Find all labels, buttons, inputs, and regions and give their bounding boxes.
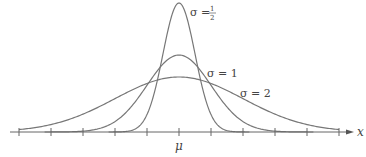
curve-sigma-2 [19,77,339,130]
curves [19,3,339,132]
curve-sigma-1 [45,55,314,132]
x-axis-arrow-icon [346,130,354,135]
fraction-numerator: 1 [210,5,214,13]
fraction-denominator: 2 [210,14,214,22]
chart: x μ σ = 1 2 σ = 1 σ = 2 [0,0,366,157]
series-label-sigma-2: σ = 2 [240,87,271,100]
series-label-sigma-1: σ = 1 [207,67,238,80]
series-label-sigma-half: σ = [190,6,210,19]
x-axis-label: x [357,125,364,139]
mu-label: μ [175,139,183,153]
